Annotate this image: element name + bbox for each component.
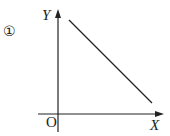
- y-axis-label: Y: [42, 8, 50, 23]
- figure: ① Y X O: [0, 0, 170, 136]
- y-axis-arrow-icon: [55, 9, 61, 18]
- decreasing-line: [69, 20, 152, 103]
- origin-label: O: [46, 115, 57, 130]
- x-axis-label: X: [150, 118, 159, 133]
- axes-diagram: [0, 0, 170, 136]
